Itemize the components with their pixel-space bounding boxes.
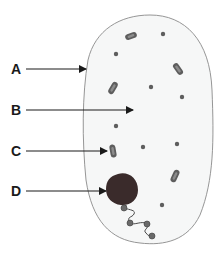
nucleus	[106, 173, 138, 205]
ribosome-icon	[161, 32, 165, 36]
label-B: B	[11, 102, 21, 118]
label-A: A	[11, 61, 21, 77]
bead-icon	[127, 220, 133, 226]
ribosome-icon	[180, 95, 184, 99]
label-C: C	[11, 143, 21, 159]
ribosome-icon	[114, 52, 118, 56]
cell-diagram: A B C D	[0, 0, 224, 255]
bead-icon	[121, 205, 127, 211]
cell-membrane	[83, 15, 213, 244]
label-A-group: A	[11, 61, 86, 77]
bead-icon	[149, 233, 155, 239]
ribosome-icon	[149, 85, 153, 89]
label-D: D	[11, 183, 21, 199]
ribosome-icon	[114, 124, 118, 128]
ribosome-icon	[175, 142, 179, 146]
ribosome-icon	[141, 145, 145, 149]
ribosome-icon	[160, 203, 164, 207]
bead-icon	[144, 221, 150, 227]
